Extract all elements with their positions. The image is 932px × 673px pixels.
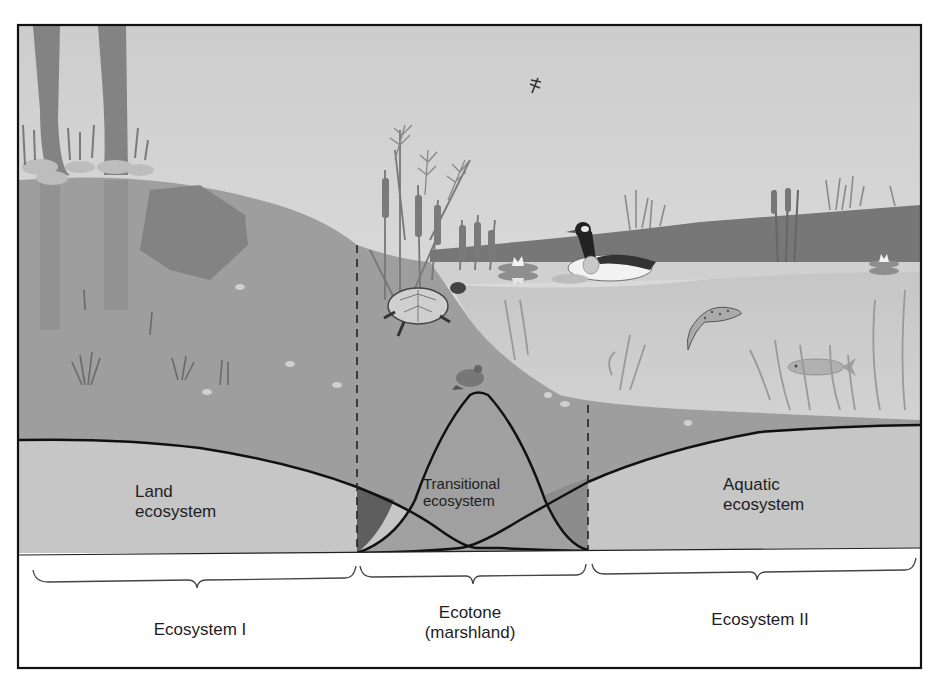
ecosystem-1-text: Ecosystem I xyxy=(110,620,290,640)
scene-illustration xyxy=(0,0,932,673)
aquatic-ecosystem-label: Aquatic ecosystem xyxy=(723,475,804,514)
duck-ripple xyxy=(552,274,588,284)
ecosystem-2-text: Ecosystem II xyxy=(670,610,850,630)
ecotone-text: Ecotone xyxy=(390,603,550,623)
aquatic-label-line1: Aquatic xyxy=(723,475,804,495)
aquatic-label-line2: ecosystem xyxy=(723,495,804,515)
ecotone-diagram: Land ecosystem Transitional ecosystem Aq… xyxy=(0,0,932,673)
land-label-line2: ecosystem xyxy=(135,502,216,522)
transitional-label-line2: ecosystem xyxy=(423,492,500,509)
ecotone-subtext: (marshland) xyxy=(390,623,550,643)
zone-label-ecosystem-1: Ecosystem I xyxy=(110,620,290,640)
land-ecosystem-label: Land ecosystem xyxy=(135,482,216,521)
transitional-label-line1: Transitional xyxy=(423,475,500,492)
land-label-line1: Land xyxy=(135,482,216,502)
transitional-ecosystem-label: Transitional ecosystem xyxy=(423,475,500,510)
zone-label-ecosystem-2: Ecosystem II xyxy=(670,610,850,630)
zone-label-ecotone: Ecotone (marshland) xyxy=(390,603,550,642)
